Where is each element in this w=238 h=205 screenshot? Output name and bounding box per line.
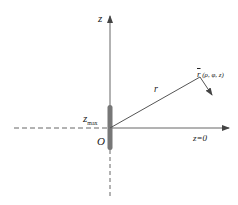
zmax-subscript: max bbox=[87, 120, 97, 126]
point-label: r (ρ, φ, z) bbox=[197, 70, 224, 79]
point-coords: (ρ, φ, z) bbox=[202, 71, 224, 79]
plane-label: z=0 bbox=[193, 134, 207, 143]
point-vector-symbol: r bbox=[197, 69, 201, 79]
origin-label: O bbox=[97, 136, 105, 147]
diagram-canvas bbox=[0, 0, 238, 205]
field-vector bbox=[200, 77, 212, 95]
zmax-label: zmax bbox=[83, 113, 98, 126]
z-axis-label: z bbox=[98, 13, 102, 24]
radius-label: r bbox=[154, 84, 158, 94]
